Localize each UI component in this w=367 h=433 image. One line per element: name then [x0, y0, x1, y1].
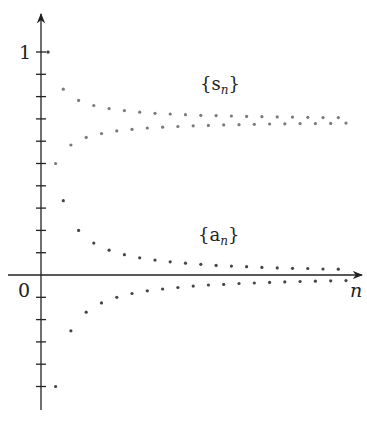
data-point: [62, 88, 65, 91]
data-point: [130, 292, 133, 295]
data-point: [69, 329, 72, 332]
data-point: [207, 283, 210, 286]
data-point: [344, 279, 347, 282]
data-point: [54, 162, 57, 165]
data-point: [176, 286, 179, 289]
data-point: [169, 260, 172, 263]
data-point: [92, 242, 95, 245]
data-point: [146, 126, 149, 129]
data-point: [268, 122, 271, 125]
data-point: [100, 132, 103, 135]
data-point: [291, 116, 294, 119]
data-point: [184, 113, 187, 116]
data-point: [62, 199, 65, 202]
data-point: [46, 50, 49, 53]
data-point: [100, 301, 103, 304]
data-point: [230, 265, 233, 268]
data-point: [69, 143, 72, 146]
data-point: [337, 268, 340, 271]
data-point: [199, 263, 202, 266]
data-point: [207, 124, 210, 127]
data-point: [245, 115, 248, 118]
data-point: [153, 259, 156, 262]
data-point: [92, 104, 95, 107]
data-point: [314, 280, 317, 283]
chart-canvas: 1 0 n {sn} {an}: [0, 0, 367, 433]
data-point: [291, 267, 294, 270]
data-point: [123, 253, 126, 256]
data-point: [283, 122, 286, 125]
data-point: [77, 99, 80, 102]
data-point: [161, 126, 164, 129]
origin-label: 0: [18, 279, 30, 301]
data-point: [237, 123, 240, 126]
data-point: [253, 281, 256, 284]
data-point: [321, 267, 324, 270]
data-point: [192, 285, 195, 288]
data-point: [169, 112, 172, 115]
data-point: [85, 311, 88, 314]
data-point: [276, 266, 279, 269]
data-point: [215, 114, 218, 117]
data-point: [108, 249, 111, 252]
s-label-sub: n: [221, 83, 229, 97]
data-point: [222, 123, 225, 126]
svg-text:{sn}: {sn}: [200, 73, 240, 97]
data-point: [192, 124, 195, 127]
data-point: [108, 107, 111, 110]
data-point: [306, 267, 309, 270]
y-tick-label-one: 1: [19, 41, 31, 63]
data-point: [153, 112, 156, 115]
data-point: [337, 116, 340, 119]
data-point: [161, 287, 164, 290]
data-point: [299, 280, 302, 283]
data-point: [245, 265, 248, 268]
s-label-base: {s: [200, 73, 221, 94]
data-point: [260, 266, 263, 269]
x-axis-label: n: [350, 279, 362, 301]
data-point: [299, 122, 302, 125]
data-point: [268, 281, 271, 284]
data-point: [329, 279, 332, 282]
data-point: [321, 116, 324, 119]
data-point: [344, 122, 347, 125]
data-point: [222, 283, 225, 286]
svg-text:{an}: {an}: [198, 224, 239, 248]
a-label-base: {a: [198, 224, 220, 245]
data-point: [54, 385, 57, 388]
series-label-s: {sn}: [200, 73, 240, 97]
data-point: [115, 129, 118, 132]
data-point: [138, 256, 141, 259]
data-point: [253, 123, 256, 126]
data-point: [329, 122, 332, 125]
data-point: [283, 280, 286, 283]
data-point: [85, 136, 88, 139]
data-point: [138, 111, 141, 114]
data-point: [237, 282, 240, 285]
data-point: [199, 114, 202, 117]
data-point: [184, 262, 187, 265]
data-point: [306, 116, 309, 119]
data-point: [276, 115, 279, 118]
data-point: [230, 114, 233, 117]
data-point: [77, 229, 80, 232]
data-point: [146, 289, 149, 292]
a-label-sub: n: [220, 234, 228, 248]
series-a-points: [46, 50, 347, 388]
data-point: [115, 296, 118, 299]
data-point: [130, 128, 133, 131]
data-point: [176, 125, 179, 128]
series-s-points: [46, 50, 347, 165]
series-label-a: {an}: [198, 224, 239, 248]
data-point: [123, 109, 126, 112]
a-label-close: }: [228, 224, 239, 245]
data-point: [314, 122, 317, 125]
s-label-close: }: [228, 73, 239, 94]
data-point: [215, 264, 218, 267]
data-point: [260, 115, 263, 118]
